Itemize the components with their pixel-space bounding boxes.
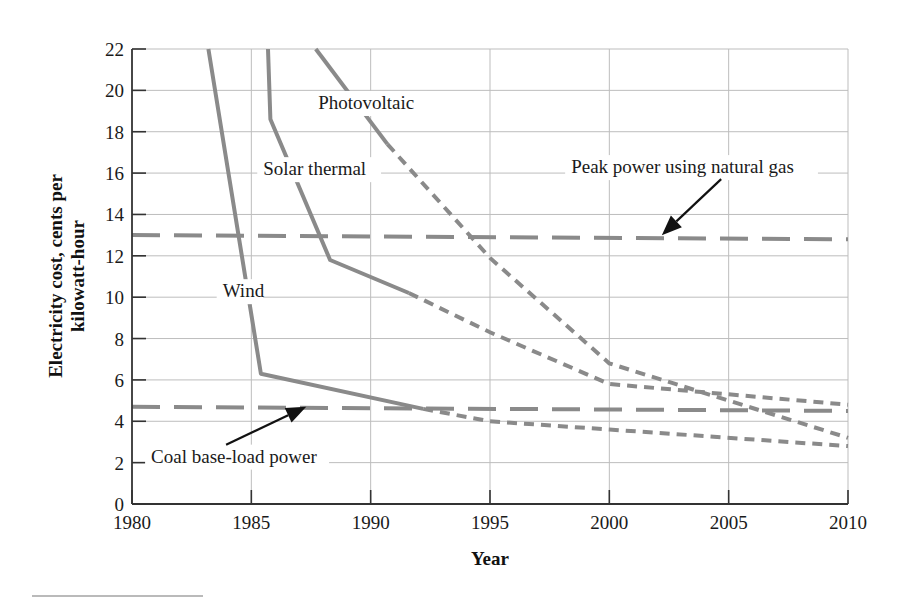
- y-tick-label: 22: [105, 39, 124, 60]
- y-tick-label: 18: [105, 122, 124, 143]
- annotation-label: Solar thermal: [263, 158, 366, 179]
- y-tick-label: 2: [115, 453, 125, 474]
- x-tick-label: 1980: [113, 512, 151, 533]
- annotation-solar-thermal: Solar thermal: [257, 157, 381, 182]
- x-tick-label: 1995: [471, 512, 509, 533]
- grid-lines: [132, 49, 848, 504]
- photovoltaic-projected-line: [387, 144, 848, 438]
- wind-projected-line: [423, 409, 848, 446]
- annotation-label: Peak power using natural gas: [571, 156, 794, 177]
- annotation-peak-power-using-natural-gas: Peak power using natural gas: [565, 155, 818, 235]
- y-axis-title-line-1: Electricity cost, cents per: [45, 174, 66, 378]
- y-tick-label: 10: [105, 287, 124, 308]
- y-tick-label: 12: [105, 246, 124, 267]
- y-tick-label: 6: [115, 370, 125, 391]
- x-tick-label: 2005: [710, 512, 748, 533]
- y-tick-label: 8: [115, 329, 125, 350]
- coal-base-load-power-reference-line: [132, 407, 848, 411]
- x-tick-label: 1990: [352, 512, 390, 533]
- y-tick-label: 14: [105, 204, 125, 225]
- x-axis-title: Year: [471, 548, 510, 569]
- x-tick-label: 2000: [590, 512, 628, 533]
- x-tick-label: 2010: [829, 512, 867, 533]
- annotation-label: Wind: [223, 280, 265, 301]
- y-tick-label: 20: [105, 80, 124, 101]
- annotation-label: Photovoltaic: [318, 92, 414, 113]
- electricity-cost-chart: 0246810121416182022198019851990199520002…: [0, 0, 918, 609]
- y-axis-title-line-2: kilowatt-hour: [67, 219, 88, 331]
- x-tick-label: 1985: [232, 512, 270, 533]
- arrow-shaft: [226, 415, 288, 444]
- solar-thermal-projected-line: [409, 293, 848, 405]
- annotation-coal-base-load-power: Coal base-load power: [145, 407, 329, 470]
- arrow-shaft: [676, 179, 721, 221]
- annotations: PhotovoltaicSolar thermalWindPeak power …: [145, 91, 818, 470]
- annotation-wind: Wind: [217, 279, 265, 304]
- annotation-photovoltaic: Photovoltaic: [312, 91, 427, 116]
- y-tick-label: 16: [105, 163, 124, 184]
- annotation-label: Coal base-load power: [151, 446, 317, 467]
- arrow-head-icon: [285, 407, 307, 423]
- y-tick-label: 4: [115, 411, 125, 432]
